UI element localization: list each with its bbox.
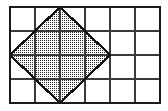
- geometry-figure: Shaded diamond inscribed in a rectangula…: [0, 0, 168, 111]
- figure-canvas: [0, 0, 168, 111]
